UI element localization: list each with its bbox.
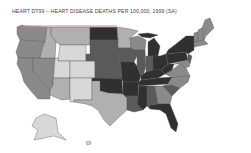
- state-florida: [150, 104, 178, 132]
- state-kansas: [95, 66, 122, 79]
- state-michigan: [148, 38, 160, 56]
- state-vermont: [194, 32, 198, 42]
- state-north-dakota: [90, 27, 118, 40]
- state-maine: [202, 18, 214, 40]
- state-arkansas: [123, 82, 139, 96]
- state-hawaii: [86, 141, 91, 145]
- state-south-dakota: [90, 40, 118, 54]
- state-colorado: [70, 61, 95, 78]
- state-new-york: [166, 36, 194, 54]
- state-michigan-up: [138, 33, 158, 38]
- top-tint-band: [22, 25, 117, 28]
- state-wisconsin: [130, 36, 146, 50]
- state-wyoming: [58, 45, 86, 61]
- us-choropleth-map: [0, 0, 251, 153]
- state-alaska: [32, 114, 66, 140]
- state-montana: [51, 27, 90, 45]
- state-indiana: [146, 56, 153, 72]
- state-new-mexico: [70, 78, 92, 102]
- state-arizona: [50, 78, 70, 100]
